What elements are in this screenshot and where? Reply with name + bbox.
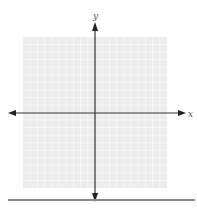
divider [8, 199, 195, 201]
coordinate-plane: x y [0, 0, 197, 218]
x-axis-right-arrow-icon [178, 110, 186, 116]
x-axis-label: x [188, 109, 193, 119]
x-axis-left-arrow-icon [8, 110, 16, 116]
y-axis-label: y [92, 11, 99, 21]
y-axis-up-arrow-icon [92, 22, 98, 31]
